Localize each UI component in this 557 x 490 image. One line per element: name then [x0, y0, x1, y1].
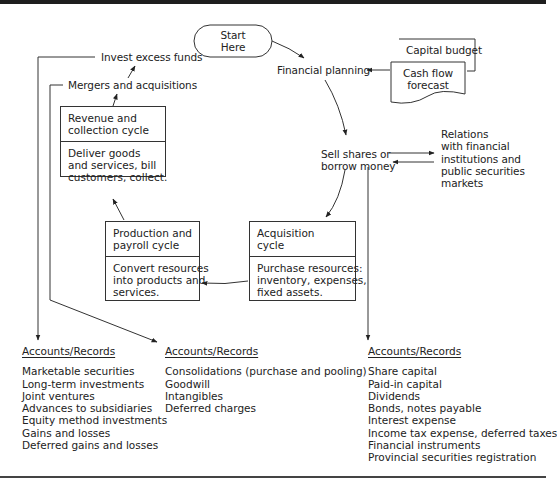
acquisition-title-line-1: Acquisition	[257, 227, 348, 239]
account-item: Advances to subsidiaries	[22, 402, 167, 414]
financial-planning-label: Financial planning	[277, 64, 370, 76]
relations-line-5: markets	[441, 177, 525, 189]
relations-line-2: with financial	[441, 140, 525, 152]
account-item: Consolidations (purchase and pooling)	[165, 365, 367, 377]
sell-shares-label: Sell shares or borrow money	[321, 148, 395, 173]
account-item: Equity method investments	[22, 414, 167, 426]
account-item: Gains and losses	[22, 427, 167, 439]
revenue-cycle-body: Deliver goods and services, bill custome…	[61, 142, 165, 188]
acquisition-title-line-2: cycle	[257, 239, 348, 251]
sell-shares-line-2: borrow money	[321, 160, 395, 172]
account-item: Deferred charges	[165, 402, 367, 414]
acquisition-body-line-2: inventory, expenses,	[257, 274, 348, 286]
account-item: Marketable securities	[22, 365, 167, 377]
acquisition-body-line-1: Purchase resources:	[257, 262, 348, 274]
capital-budget-label: Capital budget	[406, 44, 482, 56]
account-item: Long-term investments	[22, 378, 167, 390]
invest-excess-funds-label: Invest excess funds	[101, 51, 202, 63]
revenue-body-line-1: Deliver goods	[68, 147, 158, 159]
acquisition-cycle-body: Purchase resources: inventory, expenses,…	[250, 257, 355, 303]
production-title-line-1: Production and	[113, 227, 192, 239]
account-item: Provincial securities registration	[368, 451, 557, 463]
acquisition-cycle-box: Acquisition cycle Purchase resources: in…	[249, 221, 356, 301]
start-line-1: Start	[194, 29, 272, 41]
mergers-acquisitions-label: Mergers and acquisitions	[68, 79, 197, 91]
acquisition-cycle-title: Acquisition cycle	[250, 222, 355, 257]
account-item: Bonds, notes payable	[368, 402, 557, 414]
accounts-records-mergers: Accounts/Records Consolidations (purchas…	[165, 345, 367, 414]
production-body-line-2: into products and	[113, 274, 192, 286]
revenue-body-line-3: customers, collect.	[68, 171, 158, 183]
production-title-line-2: payroll cycle	[113, 239, 192, 251]
accounts-heading: Accounts/Records	[22, 345, 167, 357]
production-cycle-body: Convert resources into products and serv…	[106, 257, 199, 303]
account-item: Goodwill	[165, 378, 367, 390]
relations-line-4: public securities	[441, 165, 525, 177]
sell-shares-line-1: Sell shares or	[321, 148, 395, 160]
account-item: Intangibles	[165, 390, 367, 402]
revenue-collection-cycle-box: Revenue and collection cycle Deliver goo…	[60, 106, 166, 177]
start-line-2: Here	[194, 41, 272, 53]
account-item: Interest expense	[368, 414, 557, 426]
account-item: Deferred gains and losses	[22, 439, 167, 451]
revenue-cycle-title: Revenue and collection cycle	[61, 107, 165, 142]
revenue-title-line-2: collection cycle	[68, 124, 158, 136]
cash-flow-forecast-label: Cash flow forecast	[391, 67, 465, 92]
accounts-heading: Accounts/Records	[368, 345, 557, 357]
account-item: Financial instruments	[368, 439, 557, 451]
relations-line-3: institutions and	[441, 153, 525, 165]
relations-label: Relations with financial institutions an…	[441, 128, 525, 189]
production-body-line-3: services.	[113, 286, 192, 298]
accounts-heading: Accounts/Records	[165, 345, 367, 357]
revenue-body-line-2: and services, bill	[68, 159, 158, 171]
account-item: Dividends	[368, 390, 557, 402]
production-cycle-title: Production and payroll cycle	[106, 222, 199, 257]
acquisition-body-line-3: fixed assets.	[257, 286, 348, 298]
account-item: Income tax expense, deferred taxes	[368, 427, 557, 439]
production-payroll-cycle-box: Production and payroll cycle Convert res…	[105, 221, 200, 301]
account-item: Joint ventures	[22, 390, 167, 402]
account-item: Paid-in capital	[368, 378, 557, 390]
relations-line-1: Relations	[441, 128, 525, 140]
start-terminator-label: Start Here	[194, 29, 272, 54]
revenue-title-line-1: Revenue and	[68, 112, 158, 124]
accounts-records-investments: Accounts/Records Marketable securities L…	[22, 345, 167, 451]
cash-flow-line-1: Cash flow	[391, 67, 465, 79]
production-body-line-1: Convert resources	[113, 262, 192, 274]
account-item: Share capital	[368, 365, 557, 377]
cash-flow-line-2: forecast	[391, 79, 465, 91]
accounts-records-financing: Accounts/Records Share capital Paid-in c…	[368, 345, 557, 464]
